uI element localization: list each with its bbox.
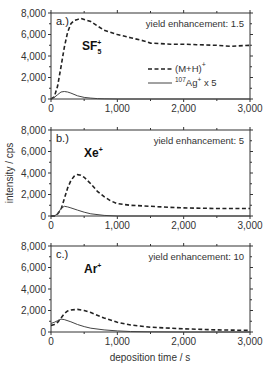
panel-label: c.) [56,248,68,260]
ion-label: SF+5 [82,39,101,55]
y-axis-title: intensity / cps [4,143,15,204]
series-ag-solid [51,92,250,100]
y-tick-label: 6,000 [21,146,46,157]
y-tick-label: 2,000 [21,189,46,200]
x-tick-label: 2,000 [171,220,196,231]
y-tick-label: 8,000 [21,8,46,19]
series-ag-solid [51,206,250,216]
y-tick-label: 8,000 [21,241,46,252]
panel-c: 02,0004,0006,0008,00001,0002,0003,000c.)… [21,241,263,348]
y-tick-label: 4,000 [21,168,46,179]
legend-label-mh: (M+H)+ [175,61,206,74]
figure: 02,0004,0006,0008,00001,0002,0003,000a.)… [0,0,270,371]
y-tick-label: 6,000 [21,29,46,40]
y-tick-label: 0 [40,327,46,338]
y-tick-label: 4,000 [21,284,46,295]
y-tick-label: 2,000 [21,72,46,83]
y-tick-label: 8,000 [21,125,46,136]
y-tick-label: 0 [40,211,46,222]
x-tick-label: 3,000 [237,103,262,114]
series-mh-dashed [51,175,250,216]
x-tick-label: 1,000 [105,336,130,347]
legend: (M+H)+107Ag+ x 5 [148,61,217,88]
series-mh-dashed [51,18,250,99]
x-tick-label: 1,000 [105,220,130,231]
legend-label-ag: 107Ag+ x 5 [175,76,217,88]
y-tick-label: 0 [40,94,46,105]
x-tick-label: 1,000 [105,103,130,114]
x-tick-label: 0 [48,220,54,231]
yield-annotation: yield enhancement: 1.5 [146,18,244,29]
panel-b: 02,0004,0006,0008,00001,0002,0003,000b.)… [21,125,263,232]
y-tick-label: 2,000 [21,305,46,316]
x-tick-label: 0 [48,336,54,347]
y-tick-label: 6,000 [21,262,46,273]
yield-annotation: yield enhancement: 5 [154,135,244,146]
y-tick-label: 4,000 [21,51,46,62]
x-tick-label: 2,000 [171,103,196,114]
panel-label: a.) [56,15,69,27]
x-tick-label: 3,000 [237,220,262,231]
ion-label: Xe+ [84,146,103,160]
x-tick-label: 0 [48,103,54,114]
x-tick-label: 3,000 [237,336,262,347]
yield-annotation: yield enhancement: 10 [148,251,244,262]
ion-label: Ar+ [84,262,101,276]
x-tick-label: 2,000 [171,336,196,347]
panel-label: b.) [56,132,69,144]
x-axis-title: deposition time / s [110,352,191,363]
series-mh-dashed [51,309,250,330]
panel-a: 02,0004,0006,0008,00001,0002,0003,000a.)… [21,8,263,115]
